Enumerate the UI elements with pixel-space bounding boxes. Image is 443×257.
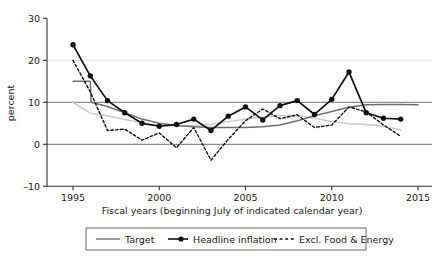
y-tick-label-20: 20 — [28, 55, 40, 66]
data-point-headline-2012 — [364, 110, 369, 115]
data-point-headline-2002 — [191, 116, 196, 121]
x-tick-label-1995: 1995 — [61, 192, 85, 203]
data-point-headline-1997 — [105, 98, 110, 103]
x-tick-label-2000: 2000 — [147, 192, 171, 203]
data-point-headline-1996 — [88, 73, 93, 78]
y-tick-label-30: 30 — [28, 13, 40, 24]
chart-legend: Target Headline inflation Excl. Food & E… — [86, 228, 394, 250]
data-point-headline-2000 — [157, 124, 162, 129]
data-point-headline-2004 — [226, 113, 231, 118]
x-tick-label-2015: 2015 — [406, 192, 430, 203]
data-point-headline-2014 — [398, 116, 403, 121]
legend-label-headline-inflation: Headline inflation — [193, 234, 277, 245]
chart-figure: percent Fiscal years (beginning July of … — [0, 0, 443, 257]
data-point-headline-2006 — [260, 117, 265, 122]
x-tick-label-2010: 2010 — [320, 192, 344, 203]
x-tick-label-2005: 2005 — [233, 192, 257, 203]
y-tick-label--10: –10 — [23, 181, 40, 192]
legend-swatch-headline-marker-icon — [178, 236, 183, 241]
data-point-headline-1998 — [122, 110, 127, 115]
data-point-headline-1999 — [139, 121, 144, 126]
data-point-headline-2013 — [381, 116, 386, 121]
data-point-headline-2003 — [208, 128, 213, 133]
data-point-headline-2005 — [243, 104, 248, 109]
x-axis-title: Fiscal years (beginning July of indicate… — [102, 205, 363, 216]
data-point-headline-2007 — [277, 103, 282, 108]
data-point-headline-2001 — [174, 122, 179, 127]
y-tick-label-0: 0 — [34, 139, 40, 150]
data-point-headline-1995 — [70, 42, 75, 47]
y-axis-title: percent — [5, 85, 16, 122]
data-point-headline-2011 — [346, 69, 351, 74]
inflation-line-chart: percent Fiscal years (beginning July of … — [0, 0, 443, 257]
data-point-headline-2010 — [329, 97, 334, 102]
chart-background — [0, 0, 443, 257]
legend-label-target: Target — [124, 234, 155, 245]
data-point-headline-2009 — [312, 112, 317, 117]
data-point-headline-2008 — [295, 98, 300, 103]
y-tick-label-10: 10 — [28, 97, 40, 108]
legend-label-excl-food-energy: Excl. Food & Energy — [299, 234, 394, 245]
